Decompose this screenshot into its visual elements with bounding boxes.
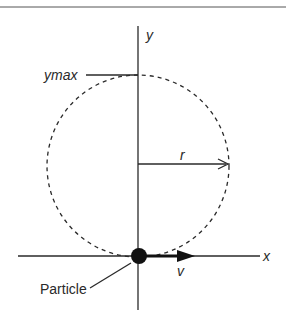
radius-label: r — [180, 148, 185, 162]
ymax-label: ymax — [44, 68, 77, 82]
circular-motion-diagram — [0, 0, 286, 325]
x-axis-label: x — [263, 249, 270, 263]
particle-dot — [131, 248, 147, 264]
y-axis-label: y — [146, 28, 153, 42]
particle-label: Particle — [40, 282, 87, 296]
velocity-arrowhead — [177, 250, 195, 262]
particle-leader-line — [90, 263, 131, 288]
velocity-label: v — [177, 264, 184, 278]
